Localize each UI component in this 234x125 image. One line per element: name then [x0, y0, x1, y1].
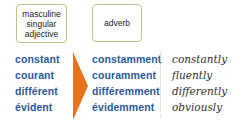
- dotted-divider: [160, 52, 161, 118]
- english-translation: differently: [172, 83, 227, 99]
- adverb-word: évidemment: [92, 99, 161, 115]
- header-line: masculine: [22, 9, 60, 19]
- adverb-header: adverb: [92, 4, 142, 42]
- english-translation: constantly: [172, 51, 227, 67]
- adverb-column: constamment couramment différemment évid…: [92, 51, 161, 115]
- adverb-word: différemment: [92, 83, 161, 99]
- header-line: singular: [22, 19, 60, 29]
- adverb-word: constamment: [92, 51, 161, 67]
- arrow-right-icon: [73, 52, 88, 120]
- english-translation: fluently: [172, 67, 227, 83]
- header-line: adjective: [22, 29, 60, 39]
- adjective-word: constant: [15, 51, 60, 67]
- english-translation: obviously: [172, 99, 227, 115]
- english-column: constantly fluently differently obviousl…: [172, 51, 227, 115]
- adverb-header-label: adverb: [104, 18, 130, 28]
- adjective-word: différent: [15, 83, 60, 99]
- adjective-word: courant: [15, 67, 60, 83]
- adjective-column: constant courant différent évident: [15, 51, 60, 115]
- adverb-word: couramment: [92, 67, 161, 83]
- masculine-singular-adjective-header: masculine singular adjective: [16, 4, 67, 43]
- adjective-word: évident: [15, 99, 60, 115]
